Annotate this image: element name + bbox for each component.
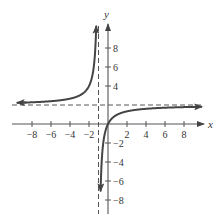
x-tick-label: −8 <box>27 129 38 140</box>
x-tick-label: 8 <box>182 129 187 140</box>
x-tick-label: −6 <box>46 129 57 140</box>
y-tick-label: −8 <box>113 195 124 206</box>
curve-branches <box>17 26 202 192</box>
left-branch <box>21 26 97 103</box>
x-tick-label: 6 <box>163 129 168 140</box>
y-tick-label: 6 <box>113 62 118 73</box>
x-tick-label: −4 <box>65 129 76 140</box>
y-tick-label: 8 <box>113 43 118 54</box>
y-tick-label: −4 <box>113 157 124 168</box>
y-tick-label: −6 <box>113 176 124 187</box>
y-tick-label: 4 <box>113 81 118 92</box>
x-axis-label: x <box>207 118 213 130</box>
y-axis-label: y <box>103 8 109 20</box>
x-tick-label: −2 <box>84 129 95 140</box>
function-graph: x y −8−6−4−22468864−2−4−6−8 <box>0 0 221 218</box>
x-tick-label: 2 <box>125 129 130 140</box>
x-tick-label: 4 <box>144 129 149 140</box>
y-tick-label: −2 <box>113 138 124 149</box>
